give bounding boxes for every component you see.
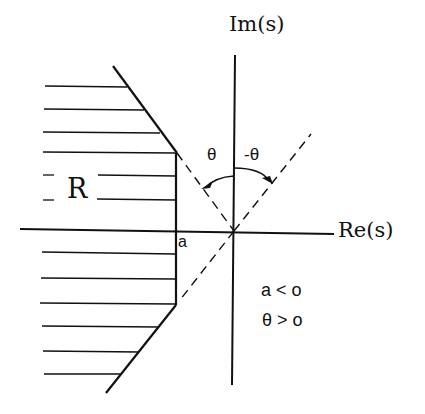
diagram-graphics [0,0,425,414]
s-plane-diagram: Im(s) Re(s) R a θ -θ a < o θ > o [0,0,425,414]
dashed-ray-left [177,153,234,231]
theta-arrow-right [262,176,273,184]
imag-axis-label: Im(s) [229,14,284,35]
theta-arc-right [234,168,270,182]
imag-axis [232,55,235,385]
condition-a: a < o [261,281,302,299]
lower-boundary-line [106,305,176,393]
dashed-ray-lower-left [180,231,234,300]
point-a-label: a [178,234,187,250]
region-label: R [67,175,87,202]
theta-label-left: θ [207,146,216,163]
theta-label-right: -θ [244,146,259,163]
condition-theta: θ > o [262,311,303,329]
real-axis-label: Re(s) [338,220,393,241]
